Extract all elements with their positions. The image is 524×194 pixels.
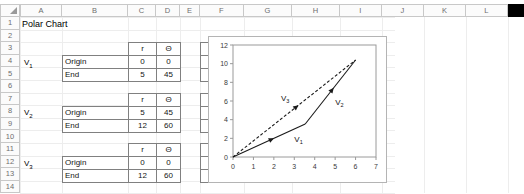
column-header-end-marker	[508, 4, 524, 17]
column-header-k[interactable]: K	[424, 4, 466, 17]
gridline-v	[20, 17, 21, 193]
column-header-l[interactable]: L	[466, 4, 508, 17]
table-row: rΘ	[63, 144, 181, 157]
chart-label-subscript: 3	[286, 98, 289, 104]
vector-subscript: 3	[29, 163, 32, 169]
select-all-corner[interactable]	[0, 4, 20, 17]
row-header-11[interactable]: 11	[0, 143, 20, 156]
row-header-8[interactable]: 8	[0, 105, 20, 118]
r-value-cell[interactable]: 0	[129, 157, 157, 170]
column-header-f[interactable]: F	[200, 4, 244, 17]
x-tick-label: 6	[354, 163, 358, 170]
row-label-cell[interactable]: Origin	[63, 157, 129, 170]
theta-value-cell[interactable]: 60	[157, 119, 181, 132]
row-label-cell[interactable]: End	[63, 69, 129, 82]
r-value-cell[interactable]: 0	[129, 56, 157, 69]
y-tick-label: 4	[224, 116, 228, 123]
gridline-h	[20, 30, 395, 31]
gridline-v	[466, 17, 467, 193]
table-row[interactable]: End1260	[63, 119, 181, 132]
y-tick-label: 2	[224, 135, 228, 142]
row-header-7[interactable]: 7	[0, 93, 20, 106]
y-axis-ticks: 024681012	[220, 42, 233, 161]
column-header-h[interactable]: H	[292, 4, 340, 17]
row-header-5[interactable]: 5	[0, 67, 20, 80]
row-header-1[interactable]: 1	[0, 17, 20, 30]
row-label-cell[interactable]: Origin	[63, 106, 129, 119]
row-label-cell[interactable]: Origin	[63, 56, 129, 69]
vector-chart-svg: 024681012 01234567 V1V2V3	[209, 37, 386, 182]
column-header-c[interactable]: C	[128, 4, 156, 17]
column-header-a[interactable]: A	[20, 4, 62, 17]
r-value-cell[interactable]: 5	[129, 69, 157, 82]
table-row[interactable]: End545	[63, 69, 181, 82]
y-tick-label: 0	[224, 154, 228, 161]
table-row[interactable]: Origin00	[63, 56, 181, 69]
vector-row-label-v1: V1	[24, 58, 33, 69]
vector-row-label-v2: V2	[24, 108, 33, 119]
polar-header-theta[interactable]: Θ	[157, 43, 181, 56]
x-tick-label: 2	[272, 163, 276, 170]
polar-header-r[interactable]: r	[129, 93, 157, 106]
page-title: Polar Chart	[22, 19, 68, 29]
theta-value-cell[interactable]: 0	[157, 56, 181, 69]
column-header-row[interactable]: ABCDEFGHIJKL	[0, 4, 524, 17]
theta-value-cell[interactable]: 0	[157, 157, 181, 170]
r-value-cell[interactable]: 12	[129, 170, 157, 183]
chart-label-subscript: 2	[340, 102, 343, 108]
polar-header-theta[interactable]: Θ	[157, 144, 181, 157]
polar-header-r[interactable]: r	[129, 144, 157, 157]
theta-value-cell[interactable]: 45	[157, 69, 181, 82]
polar-chart-object[interactable]: 024681012 01234567 V1V2V3	[208, 36, 387, 183]
row-header-14[interactable]: 14	[0, 181, 20, 194]
polar-header-r[interactable]: r	[129, 43, 157, 56]
x-tick-label: 1	[251, 163, 255, 170]
y-tick-label: 8	[224, 79, 228, 86]
table-row[interactable]: End1260	[63, 170, 181, 183]
vector-row-label-v3: V3	[24, 159, 33, 170]
table-row[interactable]: Origin545	[63, 106, 181, 119]
y-tick-label: 6	[224, 98, 228, 105]
column-header-g[interactable]: G	[244, 4, 292, 17]
column-header-b[interactable]: B	[62, 4, 128, 17]
row-header-12[interactable]: 12	[0, 156, 20, 169]
table-row: rΘ	[63, 93, 181, 106]
theta-value-cell[interactable]: 45	[157, 106, 181, 119]
row-header-10[interactable]: 10	[0, 130, 20, 143]
row-header-6[interactable]: 6	[0, 80, 20, 93]
x-tick-label: 0	[231, 163, 235, 170]
row-label-cell[interactable]: End	[63, 170, 129, 183]
x-tick-label: 4	[313, 163, 317, 170]
polar-table-v2[interactable]: rΘOrigin545End1260	[62, 93, 181, 133]
empty-corner-cell	[63, 43, 129, 56]
row-header-2[interactable]: 2	[0, 30, 20, 43]
chart-label-subscript: 1	[300, 139, 303, 145]
row-header-9[interactable]: 9	[0, 118, 20, 131]
x-axis-ticks: 01234567	[231, 157, 378, 170]
vector-subscript: 2	[29, 113, 32, 119]
x-tick-label: 5	[333, 163, 337, 170]
gridline-v	[508, 17, 509, 193]
empty-corner-cell	[63, 144, 129, 157]
theta-value-cell[interactable]: 60	[157, 170, 181, 183]
row-label-cell[interactable]: End	[63, 119, 129, 132]
polar-table-v1[interactable]: rΘOrigin00End545	[62, 42, 181, 82]
gridline-v	[424, 17, 425, 193]
row-header-3[interactable]: 3	[0, 42, 20, 55]
r-value-cell[interactable]: 12	[129, 119, 157, 132]
column-header-e[interactable]: E	[180, 4, 200, 17]
r-value-cell[interactable]: 5	[129, 106, 157, 119]
y-tick-label: 10	[220, 60, 228, 67]
row-header-4[interactable]: 4	[0, 55, 20, 68]
vector-subscript: 1	[29, 62, 32, 68]
polar-table-v3[interactable]: rΘOrigin00End1260	[62, 143, 181, 183]
column-header-j[interactable]: J	[382, 4, 424, 17]
empty-corner-cell	[63, 93, 129, 106]
row-header-13[interactable]: 13	[0, 168, 20, 181]
table-row[interactable]: Origin00	[63, 157, 181, 170]
column-header-i[interactable]: I	[340, 4, 382, 17]
column-header-d[interactable]: D	[156, 4, 180, 17]
polar-header-theta[interactable]: Θ	[157, 93, 181, 106]
table-row: rΘ	[63, 43, 181, 56]
